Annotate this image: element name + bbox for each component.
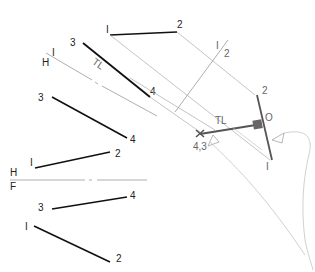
view-arrow-icon-left bbox=[208, 135, 219, 146]
aux1-label-1: I bbox=[106, 24, 109, 35]
aux2-tl-line bbox=[200, 124, 262, 134]
top-label-3: 3 bbox=[38, 92, 44, 103]
top-line-12 bbox=[35, 152, 110, 168]
top-label-4: 4 bbox=[130, 134, 136, 145]
aux1-tl-label: TL bbox=[90, 56, 106, 72]
fold-label-h: H bbox=[10, 167, 17, 178]
view-arrow-icon-right bbox=[272, 133, 284, 143]
aux2-label-2: 2 bbox=[262, 85, 268, 96]
fold-label-f: F bbox=[10, 181, 16, 192]
front-label-1: I bbox=[25, 221, 28, 232]
aux2-label-1: I bbox=[266, 161, 269, 172]
aux1-label-3: 3 bbox=[70, 37, 76, 48]
right-angle-marker bbox=[252, 119, 262, 129]
fold-label-h1-top: H bbox=[42, 57, 49, 68]
fold-line-12 bbox=[175, 40, 228, 112]
aux1-line-12 bbox=[110, 32, 177, 35]
front-line-12 bbox=[34, 226, 110, 262]
aux2-view bbox=[196, 95, 272, 160]
top-line-34 bbox=[52, 97, 127, 138]
top-label-2: 2 bbox=[115, 148, 121, 159]
front-label-3: 3 bbox=[38, 202, 44, 213]
freehand-curve bbox=[210, 132, 313, 270]
front-label-4: 4 bbox=[130, 190, 136, 201]
top-view bbox=[35, 97, 127, 168]
fold-label-12-bottom: 2 bbox=[224, 48, 230, 59]
aux1-label-2: 2 bbox=[177, 19, 183, 30]
front-view bbox=[34, 197, 127, 262]
top-label-1: I bbox=[30, 157, 33, 168]
front-label-2: 2 bbox=[116, 253, 122, 264]
diagram-canvas: H F 3 4 I 2 I 2 3 4 H I I bbox=[0, 0, 315, 272]
aux1-line-34 bbox=[83, 43, 150, 97]
aux2-tl-label: TL bbox=[215, 115, 227, 126]
fold-label-12-top: I bbox=[216, 40, 219, 51]
aux2-label-o: O bbox=[265, 112, 273, 123]
aux2-label-43: 4,3 bbox=[193, 141, 207, 152]
front-line-34 bbox=[52, 197, 127, 209]
aux2-hint-line bbox=[232, 127, 262, 150]
fold-label-h1-bottom: I bbox=[52, 47, 55, 58]
aux1-label-4: 4 bbox=[150, 86, 156, 97]
